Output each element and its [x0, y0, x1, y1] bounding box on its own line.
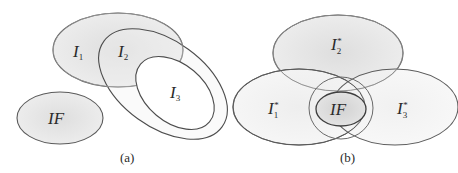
- label-if-b: IF: [329, 100, 347, 119]
- panel-b: I2* I1* I3* IF (b): [233, 15, 458, 165]
- caption-b: (b): [340, 150, 355, 165]
- label-i3star: I3*: [396, 99, 408, 120]
- venn-figure: I1 I2 I3 IF (a) I2* I1* I3* IF: [0, 0, 458, 173]
- label-i2star: I2*: [330, 35, 342, 56]
- caption-a: (a): [120, 150, 134, 165]
- label-i1star: I1*: [267, 99, 279, 120]
- label-if-a: IF: [47, 109, 65, 128]
- panel-a: I1 I2 I3 IF (a): [17, 6, 247, 165]
